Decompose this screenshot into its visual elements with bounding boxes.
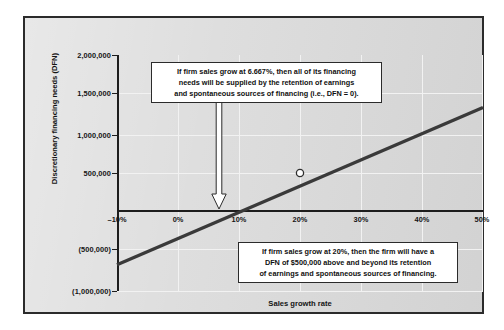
callout-line: If firm sales grow at 6.667%, then all o… (157, 66, 376, 77)
breakeven-callout: If firm sales grow at 6.667%, then all o… (151, 62, 382, 103)
callout-line: and spontaneous sources of financing (i.… (157, 88, 376, 99)
callout-line: of earnings and spontaneous sources of f… (244, 268, 452, 279)
chart-figure: 2,000,000 1,500,000 1,000,000 500,000 (5… (0, 0, 504, 330)
twenty-percent-callout: If firm sales grow at 20%, then the firm… (238, 242, 458, 283)
callout-line: DFN of $500,000 above and beyond its ret… (244, 257, 452, 268)
callout-line: If firm sales grow at 20%, then the firm… (244, 246, 452, 257)
figure-frame: 2,000,000 1,500,000 1,000,000 500,000 (5… (23, 16, 484, 314)
breakeven-arrow-icon (211, 90, 227, 210)
callout-line: needs will be supplied by the retention … (157, 77, 376, 88)
dfn-data-point-marker (296, 169, 303, 176)
